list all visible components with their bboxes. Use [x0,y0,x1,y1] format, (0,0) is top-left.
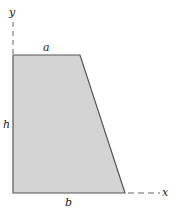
trapezoid-shape [13,55,125,193]
trapezoid-diagram: y x a h b [0,0,177,212]
bottom-width-label: b [65,196,72,209]
y-axis-label: y [8,6,16,19]
top-width-label: a [43,41,50,54]
x-axis-label: x [162,186,169,199]
height-label: h [3,118,10,131]
